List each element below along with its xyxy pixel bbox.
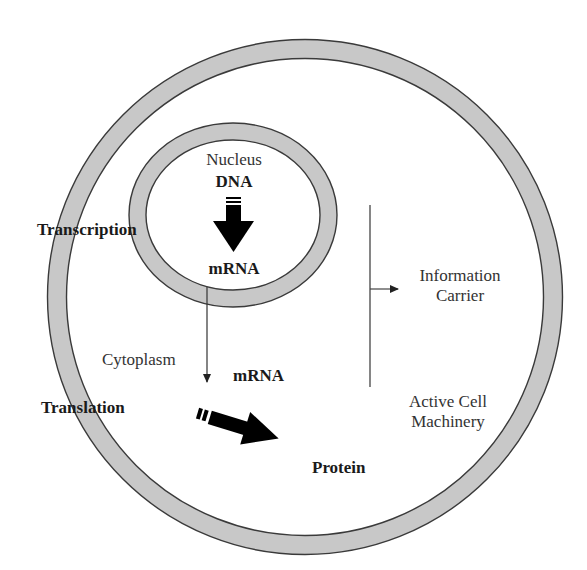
dna-label: DNA xyxy=(203,172,265,192)
nucleus-mrna-label: mRNA xyxy=(196,259,272,279)
active-cell-machinery-line1: Active Cell xyxy=(392,392,504,412)
active-cell-machinery-label: Active Cell Machinery xyxy=(392,392,504,431)
cytoplasm-label: Cytoplasm xyxy=(102,350,176,370)
transcription-arrow-icon xyxy=(213,197,254,252)
translation-arrow-icon xyxy=(192,397,283,454)
information-carrier-line1: Information xyxy=(400,266,520,286)
protein-label: Protein xyxy=(312,458,366,478)
cytoplasm-mrna-label: mRNA xyxy=(233,366,284,386)
active-cell-machinery-line2: Machinery xyxy=(392,412,504,432)
information-carrier-label: Information Carrier xyxy=(400,266,520,305)
transcription-label: Transcription xyxy=(37,220,137,240)
information-carrier-line2: Carrier xyxy=(400,286,520,306)
translation-label: Translation xyxy=(41,398,125,418)
nucleus-label: Nucleus xyxy=(193,150,275,170)
bracket-divider xyxy=(370,205,398,387)
